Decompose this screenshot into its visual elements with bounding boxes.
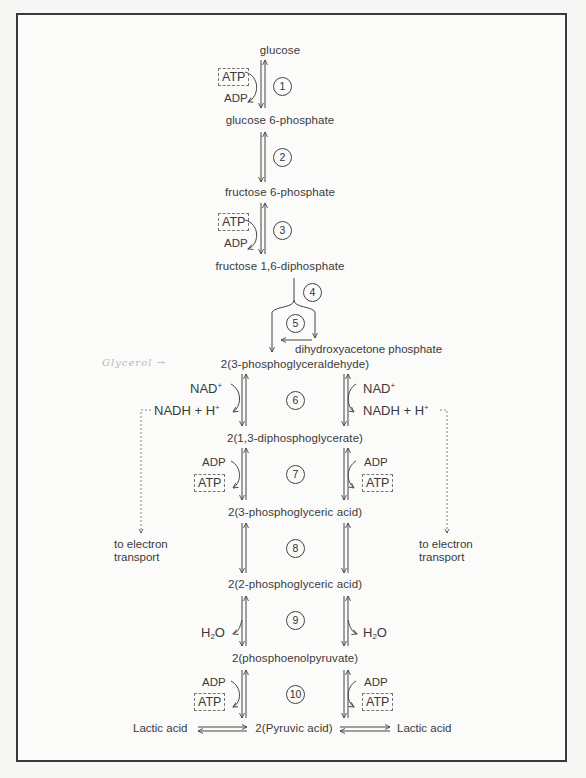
atp-input-step-1: ATP	[218, 68, 249, 86]
metabolite-lactic-acid-left: Lactic acid	[133, 722, 187, 734]
atp-output-step-7-left: ATP	[194, 474, 225, 492]
metabolite-glucose-6-phosphate: glucose 6-phosphate	[226, 114, 335, 126]
step-7-marker: 7	[286, 465, 305, 484]
metabolite-diphosphoglycerate: 2(1,3-diphosphoglycerate)	[227, 432, 363, 444]
nadh-output-left: NADH + H+	[154, 403, 220, 418]
step-5-marker: 5	[286, 314, 305, 333]
metabolite-3-phosphoglyceric-acid: 2(3-phosphoglyceric acid)	[228, 506, 362, 518]
step-1-marker: 1	[273, 77, 292, 96]
handwritten-annotation: Glycerol →	[102, 357, 166, 368]
nadh-output-right: NADH + H+	[363, 403, 429, 418]
metabolite-dihydroxyacetone-phosphate: dihydroxyacetone phosphate	[295, 343, 442, 355]
step-3-marker: 3	[273, 221, 292, 240]
step-8-marker: 8	[286, 539, 305, 558]
atp-output-step-10-right: ATP	[362, 693, 393, 711]
electron-transport-note-right: to electron transport	[419, 538, 473, 564]
atp-output-step-10-left: ATP	[194, 693, 225, 711]
metabolite-lactic-acid-right: Lactic acid	[397, 722, 451, 734]
step-10-marker: 10	[286, 685, 305, 704]
adp-output-step-1: ADP	[224, 92, 248, 104]
metabolite-phosphoglyceraldehyde: 2(3-phosphoglyceraldehyde)	[221, 358, 369, 370]
step-2-marker: 2	[273, 148, 292, 167]
nad-input-left: NAD+	[190, 381, 222, 396]
atp-input-step-3: ATP	[218, 213, 249, 231]
water-output-left: H2O	[201, 625, 225, 641]
step-6-marker: 6	[286, 391, 305, 410]
adp-output-step-3: ADP	[224, 237, 248, 249]
metabolite-fructose-1-6-diphosphate: fructose 1,6-diphosphate	[216, 260, 345, 272]
metabolite-phosphoenolpyruvate: 2(phosphoenolpyruvate)	[232, 652, 358, 664]
metabolite-2-phosphoglyceric-acid: 2(2-phosphoglyceric acid)	[228, 578, 362, 590]
water-output-right: H2O	[363, 625, 387, 641]
nad-input-right: NAD+	[363, 381, 395, 396]
adp-input-step-10-right: ADP	[364, 676, 388, 688]
adp-input-step-7-left: ADP	[202, 456, 226, 468]
metabolite-fructose-6-phosphate: fructose 6-phosphate	[225, 186, 335, 198]
step-4-marker: 4	[303, 283, 322, 302]
adp-input-step-10-left: ADP	[202, 676, 226, 688]
metabolite-pyruvic-acid: 2(Pyruvic acid)	[255, 722, 333, 734]
adp-input-step-7-right: ADP	[364, 456, 388, 468]
electron-transport-note-left: to electron transport	[114, 538, 168, 564]
metabolite-glucose: glucose	[260, 44, 300, 56]
atp-output-step-7-right: ATP	[362, 474, 393, 492]
step-9-marker: 9	[286, 611, 305, 630]
